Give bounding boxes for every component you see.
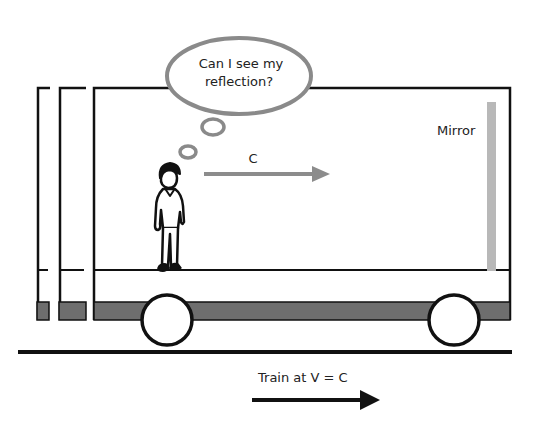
train-motion-label: Train at V = C	[257, 370, 348, 385]
thought-text-line1: Can I see my	[199, 56, 284, 71]
mirror	[487, 102, 496, 271]
relativity-train-diagram: Mirror Can I see my reflection? C Train …	[0, 0, 538, 432]
front-wheel	[142, 295, 192, 345]
mirror-label: Mirror	[437, 123, 476, 138]
light-speed-label: C	[248, 151, 257, 166]
ghost-frame-1	[37, 88, 50, 320]
thought-text-line2: reflection?	[205, 74, 273, 89]
person-figure	[155, 163, 184, 271]
train-motion-arrow-icon	[252, 390, 380, 410]
light-arrow-icon	[204, 166, 330, 182]
ghost-frame-2	[59, 88, 86, 320]
rear-wheel	[429, 295, 479, 345]
